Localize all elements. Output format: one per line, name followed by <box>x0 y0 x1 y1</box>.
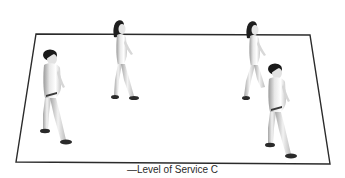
diagram-canvas <box>0 0 345 178</box>
level-of-service-diagram: —Level of Service C <box>0 0 345 178</box>
diagram-caption: —Level of Service C <box>0 164 345 176</box>
